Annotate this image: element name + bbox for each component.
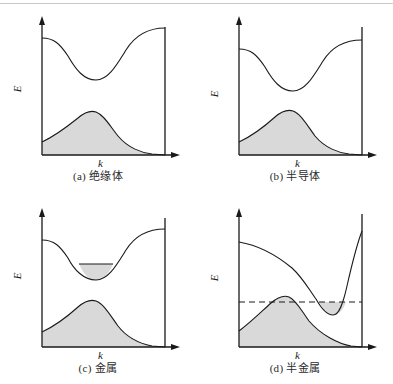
e-axis-arrow-b <box>236 16 242 25</box>
conduction-band-pool-fill-c <box>79 264 113 280</box>
k-axis-arrow-d <box>368 344 377 350</box>
e-axis-arrow-a <box>39 16 45 25</box>
panel-insulator: E k (a) 绝缘体 <box>0 0 196 192</box>
valence-band-fill-c <box>42 300 165 347</box>
e-axis-label-a: E <box>11 86 23 93</box>
k-axis-arrow-c <box>171 344 180 350</box>
e-axis-label-c: E <box>11 273 23 280</box>
conduction-band-curve-a <box>42 28 165 80</box>
panel-c-caption: (c) 金属 <box>0 359 196 375</box>
panel-d-caption: (d) 半金属 <box>197 359 393 375</box>
e-axis-arrow-c <box>39 208 45 217</box>
panel-semiconductor: E k (b) 半导体 <box>197 0 393 192</box>
e-axis-label-d: E <box>208 275 220 282</box>
panel-metal: E k (c) 金属 <box>0 192 196 384</box>
k-axis-arrow-b <box>368 152 377 158</box>
panel-b-caption: (b) 半导体 <box>197 167 393 183</box>
k-axis-arrow-a <box>171 152 180 158</box>
panel-semimetal: E k (d) 半金属 <box>197 192 393 384</box>
band-diagram-figure: E k (a) 绝缘体 E k (b) 半导体 <box>0 0 393 384</box>
conduction-band-curve-b <box>239 40 362 91</box>
e-axis-label-b: E <box>208 91 220 98</box>
e-axis-arrow-d <box>236 208 242 217</box>
panel-a-caption: (a) 绝缘体 <box>0 167 196 183</box>
